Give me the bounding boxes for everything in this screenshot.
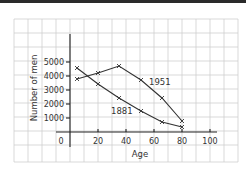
y-tick-1000: 1000 xyxy=(44,114,64,123)
y-tick-2000: 2000 xyxy=(44,100,64,109)
series-label-1881: 1881 xyxy=(111,106,133,116)
chart: 5000 4000 3000 2000 1000 0 20 40 60 80 1… xyxy=(0,0,246,174)
x-tick-60: 60 xyxy=(149,137,159,146)
axes xyxy=(56,34,217,147)
x-tick-0: 0 xyxy=(58,137,63,146)
y-tick-5000: 5000 xyxy=(44,58,64,67)
series-label-1951: 1951 xyxy=(149,77,171,87)
y-axis-label: Number of men xyxy=(29,55,39,122)
x-tick-20: 20 xyxy=(93,137,103,146)
x-tick-80: 80 xyxy=(177,137,187,146)
y-tick-3000: 3000 xyxy=(44,86,64,95)
x-tick-100: 100 xyxy=(202,137,217,146)
y-tick-4000: 4000 xyxy=(44,72,64,81)
x-tick-40: 40 xyxy=(121,137,131,146)
x-axis-label: Age xyxy=(132,149,148,159)
